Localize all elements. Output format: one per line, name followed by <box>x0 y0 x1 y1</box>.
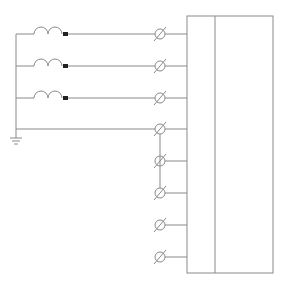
coil-arcs <box>34 59 62 66</box>
terminal-icon <box>154 154 187 168</box>
coil-arcs <box>34 91 62 98</box>
polarity-dot <box>63 96 68 100</box>
terminal-icon <box>154 91 187 105</box>
polarity-dot <box>63 64 68 68</box>
terminal-icon <box>154 218 187 232</box>
terminal-icon <box>154 250 187 264</box>
inductor-coil-icon <box>16 27 155 36</box>
terminal-icon <box>154 27 187 41</box>
device-box <box>187 16 273 273</box>
terminal-icon <box>154 186 187 200</box>
inductor-coil-icon <box>16 91 155 100</box>
inductor-coil-icon <box>16 59 155 68</box>
ground-icon <box>10 138 22 144</box>
polarity-dot <box>63 32 68 36</box>
wiring-schematic <box>0 0 286 287</box>
terminal-icon <box>154 122 187 136</box>
coil-arcs <box>34 27 62 34</box>
terminal-icon <box>154 59 187 73</box>
